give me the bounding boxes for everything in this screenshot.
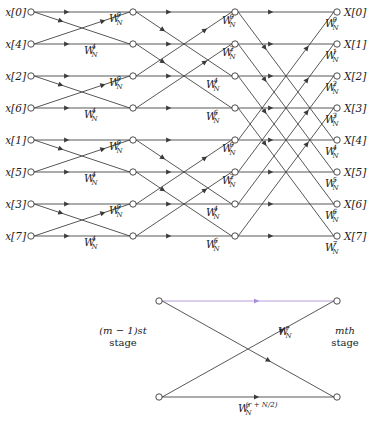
input-label-6: x[6] [5,102,27,114]
stage-1-twiddle-0-subscript: N [115,19,123,27]
stage-1-edge-cross-down-arrowhead [58,82,64,87]
detail-twiddle-lower-superscript: (r + N/2) [245,401,277,409]
input-node-2 [28,73,34,79]
stage-1-twiddle-3-superscript: 4 [90,107,95,115]
stage-1-twiddle-2-subscript: N [115,83,123,91]
detail-twiddle-upper-superscript: r [285,324,289,332]
input-label-7: x[7] [5,230,27,242]
stage-3-twiddle-4-subscript: N [331,152,339,160]
stage-3-twiddle-7-superscript: 7 [332,240,337,248]
stage-2-twiddle-6-superscript: 4 [212,205,217,213]
stage-2-node-4 [232,137,238,143]
input-node-4 [28,137,34,143]
stage-1-twiddle-5: WN4 [84,171,98,187]
detail-edge-bottom-straight-arrowhead [254,394,259,399]
input-label-4: x[4] [5,38,27,50]
input-node-3 [28,105,34,111]
stage-2-twiddle-6-subscript: N [212,213,220,221]
stage-2-edge-cross-down-arrowhead [159,154,165,159]
detail-left-stage-label-line2: stage [109,337,137,348]
stage-1-twiddle-5-subscript: N [90,179,98,187]
stage-1-twiddle-7: WN4 [84,235,98,251]
output-node-7 [334,233,340,239]
stage-1-twiddle-6-superscript: 0 [116,203,121,211]
detail-node-bottom-right [334,394,340,400]
stage-2-twiddle-2-superscript: 4 [212,77,217,85]
stage-3-edge-cross-up-arrowhead [303,46,308,52]
stage-3-edge-straight-bottom-arrowhead [268,201,273,206]
stage-2-edge-straight-top-arrowhead [166,41,171,46]
stage-3-twiddle-6-subscript: N [331,216,339,224]
stage-1-edge-cross-up-arrowhead [100,19,106,24]
stage-2-edge-cross-down-arrowhead [159,26,165,31]
stage-3-twiddle-3-subscript: N [331,120,339,128]
detail-node-top-right [334,298,340,304]
input-label-5: x[5] [5,166,27,178]
stage-3-twiddle-0-subscript: N [331,24,339,32]
stage-2-edge-cross-up-arrowhead [201,28,207,33]
stage-3-twiddle-1-subscript: N [331,56,339,64]
detail-twiddle-lower: WN(r + N/2) [238,401,278,417]
stage-2-edge-straight-top-arrowhead [166,137,171,142]
stage-2-node-5 [232,169,238,175]
output-label-6: X[6] [343,198,367,210]
stage-1-twiddle-4: WN0 [109,139,123,155]
output-node-1 [334,41,340,47]
output-node-4 [334,137,340,143]
input-label-0: x[0] [5,6,27,18]
stage-3-twiddle-0-superscript: 0 [332,16,337,24]
input-node-5 [28,169,34,175]
stage-1-node-0 [130,9,136,15]
detail-left-stage-label-line1: (m − 1)st [99,325,148,336]
detail-right-stage-label-line1: mth [335,325,355,336]
stage-1-node-2 [130,73,136,79]
stage-1-twiddle-1-subscript: N [90,51,98,59]
stage-1-twiddle-3-subscript: N [90,115,98,123]
stage-3-edge-straight-top-arrowhead [268,41,273,46]
stage-3-edge-cross-down-arrowhead [261,140,266,146]
stage-3-edge-straight-top-arrowhead [268,105,273,110]
input-label-2: x[2] [5,70,27,82]
output-label-2: X[2] [343,70,367,82]
stage-1-edge-cross-down-arrowhead [58,210,64,215]
stage-2-edge-cross-up-arrowhead [201,188,207,193]
stage-2-edge-cross-up-arrowhead [201,156,207,161]
stage-1-edge-straight-bottom-arrowhead [64,169,69,174]
stage-3-twiddle-4: WN4 [325,144,339,160]
output-node-5 [334,169,340,175]
stage-1-node-6 [130,201,136,207]
stage-2-node-0 [232,9,238,15]
detail-node-bottom-left [156,394,162,400]
stage-1-twiddle-4-subscript: N [115,147,123,155]
stage-1-edge-cross-up-arrowhead [100,83,106,88]
detail-edge-top-straight-arrowhead [254,298,259,303]
stage-1-node-1 [130,41,136,47]
stage-2-twiddle-4: WN0 [222,141,236,157]
input-node-0 [28,9,34,15]
stage-2-twiddle-0-subscript: N [228,21,236,29]
stage-3-twiddle-7-subscript: N [331,248,339,256]
stage-3-edge-cross-up-arrowhead [303,78,308,84]
stage-1-edge-straight-top-arrowhead [64,9,69,14]
stage-2-node-3 [232,105,238,111]
stage-3-twiddle-2: WN2 [325,80,339,96]
stage-2-edge-cross-down-arrowhead [159,58,165,63]
stage-2-twiddle-2-subscript: N [212,85,220,93]
stage-1-twiddle-1: WN4 [84,43,98,59]
stage-2-edge-cross-down-arrowhead [159,186,165,191]
stage-2-twiddle-3: WN6 [206,109,220,125]
output-node-2 [334,73,340,79]
stage-1-twiddle-6: WN0 [109,203,123,219]
stage-1-edge-straight-top-arrowhead [64,137,69,142]
stage-3-twiddle-5-subscript: N [331,184,339,192]
stage-2-edge-cross-up-arrowhead [201,60,207,65]
stage-1-edge-cross-up-arrowhead [100,211,106,216]
stage-1-twiddle-0-superscript: 0 [116,11,121,19]
stage-3-twiddle-2-subscript: N [331,88,339,96]
output-label-5: X[5] [343,166,367,178]
output-label-4: X[4] [343,134,367,146]
stage-1-node-3 [130,105,136,111]
output-label-7: X[7] [343,230,367,242]
stage-1-edge-straight-bottom-arrowhead [64,105,69,110]
stage-1-twiddle-2-superscript: 0 [116,75,121,83]
